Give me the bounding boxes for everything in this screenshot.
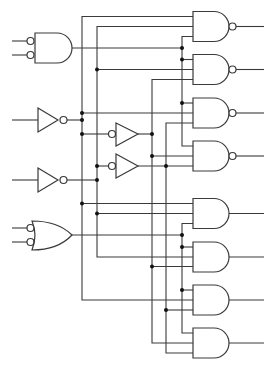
logic-diagram: [0, 0, 272, 371]
nand-gate-4: [193, 141, 264, 171]
inversion-bubble-icon: [27, 38, 34, 45]
junction-dots: [80, 46, 184, 312]
bubble-buffer-2: [97, 154, 193, 178]
nand-gate-2: [193, 55, 264, 85]
nand-gate-1: [193, 12, 264, 42]
bubble-buffer-1: [82, 123, 152, 146]
and-gate-7: [193, 285, 264, 315]
nand-gate-3: [193, 98, 264, 128]
inversion-bubble-icon: [27, 52, 34, 59]
bus-wires: [82, 17, 193, 354]
inverter-1: [12, 108, 82, 132]
inverter-2: [12, 168, 97, 192]
and-gate-8: [193, 328, 264, 358]
and-gate-5: [193, 199, 264, 229]
and-gate-6: [193, 242, 264, 272]
